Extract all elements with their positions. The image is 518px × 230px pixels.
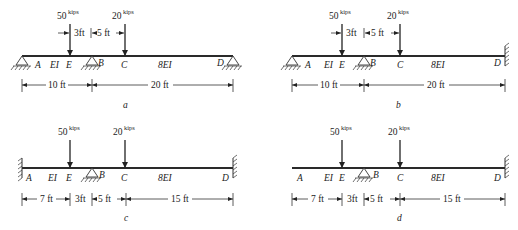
stiffness-ei-label: EI xyxy=(47,173,58,183)
point-d-label: D xyxy=(216,58,224,68)
load-dim-3ft: 3ft xyxy=(74,28,85,38)
load-e-unit: kips xyxy=(341,124,352,131)
load-e-unit: kips xyxy=(340,8,351,15)
beam-diagrams-figure: 50 kips 20 kips 3ft 5 ft A EI E B C 8EI … xyxy=(0,0,518,230)
dim-20ft: 20 ft xyxy=(151,80,169,90)
diagram-b: 50 kips 20 kips 3ft 5 ft A EI E B C 8EI … xyxy=(281,8,509,110)
point-b-label: B xyxy=(370,58,376,68)
point-c-label: C xyxy=(121,173,128,183)
dim-5ft: 5 ft xyxy=(370,194,383,204)
point-e-label: E xyxy=(65,60,72,70)
point-d-label: D xyxy=(493,173,501,183)
fixed-support-d-icon xyxy=(233,155,237,178)
dim-7ft: 7 ft xyxy=(40,194,53,204)
load-c-value: 20 xyxy=(112,11,122,21)
dim-20ft: 20 ft xyxy=(427,80,445,90)
stiffness-ei-label: EI xyxy=(323,60,334,70)
point-d-label: D xyxy=(493,58,501,68)
point-e-label: E xyxy=(338,60,345,70)
load-c-unit: kips xyxy=(123,8,134,15)
pin-support-b-icon xyxy=(353,168,373,182)
diagram-d: 50 kips 20 kips A EI E B C 8EI D 7 ft 3f… xyxy=(292,124,509,223)
stiffness-ei-label: EI xyxy=(49,60,60,70)
load-e-value: 50 xyxy=(329,11,339,21)
load-e-value: 50 xyxy=(330,127,340,137)
dim-3ft: 3ft xyxy=(75,194,86,204)
point-c-label: C xyxy=(121,60,128,70)
dim-10ft: 10 ft xyxy=(48,80,66,90)
load-c-unit: kips xyxy=(399,124,410,131)
point-a-label: A xyxy=(296,173,303,183)
point-a-label: A xyxy=(304,60,311,70)
pin-support-d-icon xyxy=(222,56,242,70)
load-e-unit: kips xyxy=(68,8,79,15)
point-e-label: E xyxy=(338,173,345,183)
diagram-c: 50 kips 20 kips A EI E B C 8EI D 7 ft 3f… xyxy=(18,124,237,223)
load-c-value: 20 xyxy=(388,127,398,137)
stiffness-8ei-label: 8EI xyxy=(158,173,173,183)
pin-support-a-icon xyxy=(11,56,31,70)
load-c-unit: kips xyxy=(398,8,409,15)
dim-10ft: 10 ft xyxy=(320,80,338,90)
dim-5ft: 5 ft xyxy=(98,194,111,204)
point-d-label: D xyxy=(221,173,229,183)
pin-support-a-icon xyxy=(281,56,301,70)
point-b-label: B xyxy=(373,170,379,180)
load-c-unit: kips xyxy=(124,124,135,131)
caption-b: b xyxy=(396,100,401,110)
pin-support-b-icon xyxy=(81,168,101,182)
fixed-support-a-icon xyxy=(18,158,22,181)
load-dim-3ft: 3ft xyxy=(346,28,357,38)
dim-7ft: 7 ft xyxy=(311,194,324,204)
caption-c: c xyxy=(124,213,129,223)
stiffness-8ei-label: 8EI xyxy=(431,173,446,183)
dim-15ft: 15 ft xyxy=(171,194,189,204)
load-e-value: 50 xyxy=(57,11,67,21)
point-b-label: B xyxy=(98,58,104,68)
point-e-label: E xyxy=(65,173,72,183)
load-dim-5ft: 5 ft xyxy=(97,28,110,38)
diagram-a: 50 kips 20 kips 3ft 5 ft A EI E B C 8EI … xyxy=(11,8,242,110)
dim-15ft: 15 ft xyxy=(443,194,461,204)
load-e-value: 50 xyxy=(58,127,68,137)
load-c-value: 20 xyxy=(113,127,123,137)
stiffness-ei-label: EI xyxy=(323,173,334,183)
caption-a: a xyxy=(123,100,128,110)
load-c-value: 20 xyxy=(387,11,397,21)
stiffness-8ei-label: 8EI xyxy=(158,60,173,70)
point-c-label: C xyxy=(397,60,404,70)
dim-3ft: 3ft xyxy=(347,194,358,204)
load-e-unit: kips xyxy=(69,124,80,131)
stiffness-8ei-label: 8EI xyxy=(431,60,446,70)
point-a-label: A xyxy=(34,60,41,70)
fixed-support-d-icon xyxy=(505,155,509,178)
fixed-support-d-icon xyxy=(505,43,509,66)
point-c-label: C xyxy=(397,173,404,183)
point-a-label: A xyxy=(25,173,32,183)
point-b-label: B xyxy=(99,170,105,180)
caption-d: d xyxy=(397,213,402,223)
load-dim-5ft: 5 ft xyxy=(371,28,384,38)
